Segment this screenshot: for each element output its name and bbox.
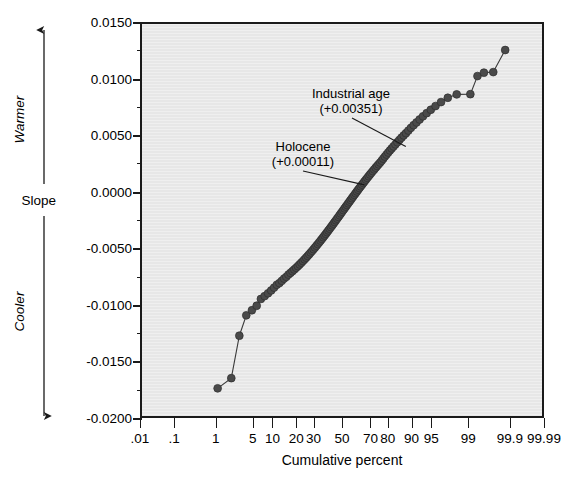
x-tick — [468, 418, 469, 428]
y-tick-label: -0.0150 — [86, 354, 132, 369]
data-point — [253, 302, 261, 310]
x-axis-title: Cumulative percent — [140, 452, 544, 468]
x-tick-label: 80 — [380, 431, 395, 446]
annotation-holocene-label: Holocene — [246, 139, 360, 154]
x-tick — [314, 418, 315, 428]
axis-label-cooler: Cooler — [12, 281, 27, 343]
annotation-industrial-value: (+0.00351) — [291, 101, 411, 116]
data-point — [501, 46, 509, 54]
y-axis: 0.01500.01000.00500.0000-0.0050-0.0100-0… — [58, 22, 142, 418]
x-tick-label: 10 — [265, 431, 280, 446]
x-tick — [544, 418, 545, 428]
x-tick — [253, 418, 254, 428]
x-tick-label: 99.99 — [527, 431, 561, 446]
data-point — [227, 374, 235, 382]
x-axis: .01.11510203050708090959999.999.99 — [140, 418, 544, 448]
x-tick — [388, 418, 389, 428]
x-tick — [342, 418, 343, 428]
x-tick-label: .1 — [169, 431, 180, 446]
data-point — [480, 69, 488, 77]
data-point — [489, 68, 497, 76]
annotation-industrial-label: Industrial age — [291, 86, 411, 101]
figure-root: Warmer Cooler Slope 0.01500.01000.00500.… — [0, 0, 569, 480]
x-tick-label: 20 — [289, 431, 304, 446]
x-tick — [510, 418, 511, 428]
axis-label-warmer: Warmer — [12, 89, 27, 151]
x-tick-label: 70 — [363, 431, 378, 446]
x-tick — [216, 418, 217, 428]
double-headed-arrow-icon — [0, 16, 62, 428]
y-tick-label: 0.0150 — [91, 15, 132, 30]
x-tick — [174, 418, 175, 428]
y-tick-label: 0.0050 — [91, 128, 132, 143]
data-point — [235, 332, 243, 340]
x-tick-label: 99 — [461, 431, 476, 446]
x-tick-label: 5 — [249, 431, 257, 446]
x-tick-label: 90 — [404, 431, 419, 446]
x-tick-label: 1 — [212, 431, 220, 446]
x-tick-label: 50 — [334, 431, 349, 446]
annotation-industrial-age: Industrial age (+0.00351) — [291, 86, 411, 116]
data-point — [453, 90, 461, 98]
y-tick-label: -0.0200 — [86, 411, 132, 426]
x-tick-label: 99.9 — [497, 431, 523, 446]
x-tick — [431, 418, 432, 428]
x-tick — [370, 418, 371, 428]
data-point — [437, 98, 445, 106]
slope-axis-annotation: Warmer Cooler Slope — [0, 16, 62, 428]
annotation-holocene-value: (+0.00011) — [246, 154, 360, 169]
data-series-scatter — [142, 24, 546, 420]
x-tick — [272, 418, 273, 428]
y-tick-label: 0.0000 — [91, 184, 132, 199]
y-tick-label: 0.0100 — [91, 71, 132, 86]
y-tick-label: -0.0100 — [86, 297, 132, 312]
y-tick-label: -0.0050 — [86, 241, 132, 256]
x-tick-label: 95 — [424, 431, 439, 446]
x-tick — [140, 418, 141, 428]
annotation-holocene: Holocene (+0.00011) — [246, 139, 360, 169]
x-tick — [412, 418, 413, 428]
data-point — [466, 90, 474, 98]
axis-label-slope: Slope — [0, 193, 56, 208]
data-point — [214, 384, 222, 392]
x-tick-label: .01 — [131, 431, 150, 446]
x-tick — [296, 418, 297, 428]
x-tick-label: 30 — [306, 431, 321, 446]
data-point — [444, 94, 452, 102]
plot-area — [140, 22, 544, 418]
